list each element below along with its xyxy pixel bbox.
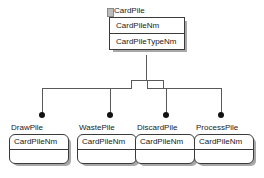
class-box-wastepile[interactable]: WastePile CardPileNm: [77, 134, 137, 164]
class-body-drawpile: CardPileNm: [9, 134, 69, 164]
attribute-row: CardPileNm: [136, 135, 194, 150]
class-box-discardpile[interactable]: DiscardPile CardPileNm: [135, 134, 195, 164]
selection-handle-icon[interactable]: [107, 8, 114, 17]
class-body-processpile: CardPileNm: [194, 134, 254, 164]
class-name-discardpile: DiscardPile: [137, 123, 177, 133]
class-name-drawpile: DrawPile: [11, 123, 43, 133]
class-name-processpile: ProcessPile: [196, 123, 238, 133]
attribute-row: CardPileNm: [110, 18, 184, 33]
class-body-cardpile: CardPileNm CardPileTypeNm: [109, 17, 185, 50]
class-box-drawpile[interactable]: DrawPile CardPileNm: [9, 134, 69, 164]
class-name-wastepile: WastePile: [79, 123, 115, 133]
class-box-processpile[interactable]: ProcessPile CardPileNm: [194, 134, 254, 164]
association-end-dot-wastepile: [107, 112, 113, 118]
empty-compartment: [195, 150, 253, 163]
attribute-row: CardPileTypeNm: [110, 33, 184, 49]
attribute-row: CardPileNm: [10, 135, 68, 150]
connector-drop-processpile: [221, 88, 222, 114]
connector-lower-bar-left: [42, 88, 132, 89]
empty-compartment: [78, 150, 136, 163]
connector-lower-bar-right: [147, 88, 222, 89]
class-name-cardpile: CardPile: [113, 6, 146, 16]
class-body-discardpile: CardPileNm: [135, 134, 195, 164]
connector-drop-discardpile: [166, 88, 167, 114]
connector-drop-drawpile: [42, 88, 43, 114]
empty-compartment: [136, 150, 194, 163]
class-body-wastepile: CardPileNm: [77, 134, 137, 164]
association-end-dot-discardpile: [163, 112, 169, 118]
association-end-dot-processpile: [218, 112, 224, 118]
empty-compartment: [10, 150, 68, 163]
connector-drop-wastepile: [110, 88, 111, 114]
attribute-row: CardPileNm: [78, 135, 136, 150]
association-end-dot-drawpile: [39, 112, 45, 118]
class-box-cardpile[interactable]: CardPile CardPileNm CardPileTypeNm: [109, 17, 185, 50]
class-diagram-canvas: CardPile CardPileNm CardPileTypeNm DrawP…: [0, 0, 264, 178]
attribute-row: CardPileNm: [195, 135, 253, 150]
connector-trunk-vertical: [146, 55, 147, 81]
